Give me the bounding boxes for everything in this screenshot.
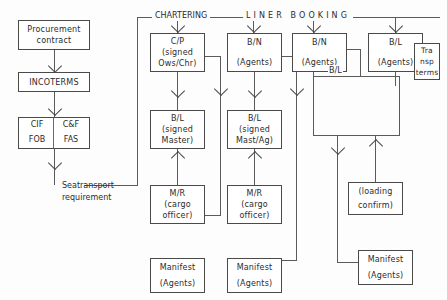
- box-procurement-contract: Procurement contract: [18, 20, 90, 50]
- loading-confirm-line-2: confirm): [358, 200, 393, 211]
- arrow-mr-to-bl-chartering: [171, 151, 185, 165]
- box-bl-signed-mast-ag: B/L (signed Mast/Ag): [227, 110, 282, 149]
- box-mr-cargo-officer-chartering: M/R (cargo officer): [150, 185, 205, 224]
- bl-mastag-line-3: Mast/Ag): [236, 135, 273, 146]
- manifest-booking-2-line-1: Manifest: [368, 254, 404, 265]
- rail-left-descent: [137, 17, 138, 185]
- arrow-cp-branch-down: [214, 82, 228, 96]
- bn-1-line-1: B/N: [247, 37, 262, 48]
- arrow-chartering-down: [171, 19, 185, 33]
- bl-agents-line-2: (Agents): [378, 57, 414, 68]
- mr-booking-1-line-3: officer): [239, 210, 269, 221]
- manifest-booking-1-line-2: (Agents): [237, 278, 273, 289]
- incoterms-label: INCOTERMS: [29, 77, 79, 88]
- arrow-booking-2-down: [307, 19, 321, 33]
- incoterms-grid-divider: [53, 118, 54, 148]
- transp-line-1: Tra: [421, 45, 433, 56]
- bl-master-line-3: Master): [162, 135, 194, 146]
- label-bl-booking-2: B/L: [328, 65, 343, 76]
- arrow-bn-1-branch-down: [290, 82, 304, 96]
- bn-1-line-2: (Agents): [237, 57, 273, 68]
- header-chartering: CHARTERING: [152, 11, 210, 21]
- manifest-booking-1-line-1: Manifest: [237, 262, 273, 273]
- cp-branch-into-manifest: [205, 215, 221, 216]
- box-bl-signed-master: B/L (signed Master): [150, 110, 205, 149]
- bl-mastag-line-1: B/L: [248, 113, 261, 124]
- mr-chartering-line-2: (cargo: [164, 199, 191, 210]
- arrow-to-seatransport: [48, 156, 62, 170]
- transp-line-3: terms: [416, 67, 439, 78]
- bl-agents-descent: [395, 72, 396, 86]
- bn-1-branch-into-manifest: [282, 260, 297, 261]
- bn-2-main-descent: [313, 72, 314, 76]
- arrow-loop-down-2: [331, 141, 345, 155]
- cp-line-2: (signed: [162, 47, 193, 58]
- box-manifest-booking-2: Manifest (Agents): [358, 250, 413, 285]
- label-seatransport-line-1: Seatransport: [61, 180, 115, 191]
- box-manifest-chartering: Manifest (Agents): [150, 258, 205, 293]
- box-bn-agents-1: B/N (Agents): [227, 33, 282, 72]
- term-cnf: C&F: [53, 120, 89, 129]
- bl-master-line-1: B/L: [171, 113, 184, 124]
- box-cp-signed: C/P (signed Ows/Chr): [150, 33, 205, 72]
- mr-chartering-line-3: officer): [162, 210, 192, 221]
- cp-line-3: Ows/Chr): [158, 58, 196, 69]
- cp-branch-out: [205, 56, 220, 57]
- link-into-manifest-right: [337, 262, 358, 263]
- arrow-booking-1-down: [247, 19, 261, 33]
- manifest-chartering-line-1: Manifest: [160, 262, 196, 273]
- manifest-booking-2-line-2: (Agents): [368, 270, 404, 281]
- loading-confirm-line-1: (loading: [358, 186, 392, 197]
- term-cif: CIF: [19, 120, 55, 129]
- term-fob: FOB: [19, 135, 55, 144]
- arrow-to-terms-grid: [48, 102, 62, 116]
- manifest-chartering-line-2: (Agents): [160, 278, 196, 289]
- bl-master-line-2: (signed: [162, 124, 193, 135]
- arrow-to-incoterms: [48, 59, 62, 73]
- bl-agents-line-1: B/L: [389, 37, 402, 48]
- box-mr-cargo-officer-booking-1: M/R (cargo officer): [227, 185, 282, 224]
- bn-2-branch-out: [347, 49, 360, 50]
- mr-booking-1-line-1: M/R: [247, 188, 263, 199]
- arrow-bn-1-to-bl-1: [248, 84, 262, 98]
- booking-2-loop-rect: [313, 76, 400, 136]
- box-loading-confirm: (loading confirm): [348, 182, 403, 215]
- term-fas: FAS: [53, 135, 89, 144]
- transp-line-2: nsp: [420, 56, 434, 67]
- box-incoterms: INCOTERMS: [18, 72, 90, 92]
- bn-2-branch-descent: [360, 49, 361, 76]
- bn-2-line-1: B/N: [312, 37, 327, 48]
- box-manifest-booking-1: Manifest (Agents): [227, 258, 282, 293]
- procurement-line-2: contract: [37, 35, 72, 46]
- mr-booking-1-line-2: (cargo: [241, 199, 268, 210]
- cp-line-1: C/P: [171, 36, 185, 47]
- arrow-mr-to-bl-booking-1: [248, 151, 262, 165]
- box-transp-terms: Tra nsp terms: [414, 43, 440, 80]
- label-seatransport-line-2: requirement: [61, 192, 112, 203]
- procurement-line-1: Procurement: [27, 24, 80, 35]
- arrow-loading-up: [369, 139, 383, 153]
- flow-diagram-canvas: CHARTERING LINER BOOKING Procurement con…: [0, 0, 447, 300]
- bl-mastag-line-2: (signed: [239, 124, 270, 135]
- arrow-booking-3-down: [389, 19, 403, 33]
- header-liner-booking: LINER BOOKING: [243, 11, 353, 21]
- box-incoterms-grid: CIF C&F FOB FAS: [18, 117, 90, 149]
- mr-chartering-line-1: M/R: [170, 188, 186, 199]
- cp-branch-descent: [220, 56, 221, 215]
- arrow-cp-to-bl: [171, 84, 185, 98]
